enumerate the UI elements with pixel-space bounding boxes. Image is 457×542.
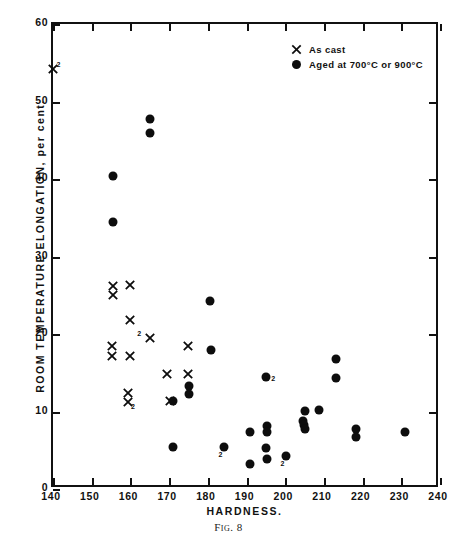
data-point-aged-28 bbox=[245, 460, 254, 469]
data-point-aged-7: 2 bbox=[261, 372, 270, 381]
x-tick-label-160: 160 bbox=[119, 490, 138, 502]
data-point-aged-3 bbox=[108, 217, 117, 226]
y-tick-right-40 bbox=[429, 179, 436, 181]
dot-marker-icon bbox=[300, 406, 309, 415]
cross-marker-icon bbox=[124, 280, 135, 291]
dot-marker-icon bbox=[261, 443, 270, 452]
dot-marker-icon bbox=[168, 397, 177, 406]
data-point-note: 2 bbox=[131, 403, 135, 410]
data-point-aged-13 bbox=[315, 405, 324, 414]
x-tick-top-220 bbox=[363, 24, 365, 31]
legend-item-as-cast: As cast bbox=[288, 42, 423, 57]
dot-marker-icon bbox=[261, 372, 270, 381]
dot-marker-icon bbox=[205, 296, 214, 305]
data-point-aged-4 bbox=[205, 296, 214, 305]
data-point-aged-12 bbox=[300, 406, 309, 415]
data-point-aged-0 bbox=[145, 114, 154, 123]
dot-marker-icon bbox=[185, 389, 194, 398]
dot-marker-icon bbox=[332, 354, 341, 363]
data-point-note: 2 bbox=[271, 374, 275, 381]
dot-marker-icon bbox=[168, 443, 177, 452]
x-tick-top-230 bbox=[401, 24, 403, 31]
cross-marker-icon bbox=[288, 44, 304, 55]
y-tick-right-50 bbox=[429, 102, 436, 104]
data-point-as-cast-13: 2 bbox=[123, 397, 134, 408]
data-point-aged-19 bbox=[246, 427, 255, 436]
y-tick-label-30: 30 bbox=[26, 249, 48, 261]
dot-marker-icon bbox=[246, 427, 255, 436]
legend-item-aged: Aged at 700°C or 900°C bbox=[288, 57, 423, 72]
x-tick-top-240 bbox=[440, 24, 442, 31]
data-point-aged-25 bbox=[261, 443, 270, 452]
data-point-as-cast-5: 2 bbox=[144, 332, 155, 343]
data-point-aged-6 bbox=[332, 354, 341, 363]
x-axis-title: HARDNESS. bbox=[51, 505, 438, 517]
y-tick-label-0: 0 bbox=[26, 481, 48, 493]
cross-marker-icon bbox=[107, 351, 118, 362]
data-point-note: 2 bbox=[280, 460, 284, 467]
cross-marker-icon bbox=[124, 315, 135, 326]
data-point-as-cast-11 bbox=[183, 369, 194, 380]
x-tick-label-220: 220 bbox=[351, 490, 370, 502]
x-tick-170 bbox=[169, 478, 171, 485]
cross-marker-icon bbox=[107, 290, 118, 301]
data-point-aged-2 bbox=[108, 171, 117, 180]
dot-marker-icon bbox=[315, 405, 324, 414]
y-axis-title: ROOM TEMPERATURE ELONGATION, per cent. bbox=[34, 56, 46, 436]
data-point-aged-23 bbox=[168, 443, 177, 452]
y-tick-right-10 bbox=[429, 412, 436, 414]
x-tick-top-200 bbox=[285, 24, 287, 31]
x-tick-label-230: 230 bbox=[390, 490, 409, 502]
dot-marker-icon bbox=[332, 374, 341, 383]
y-tick-label-40: 40 bbox=[26, 171, 48, 183]
dot-marker-icon bbox=[145, 114, 154, 123]
data-point-as-cast-7 bbox=[107, 351, 118, 362]
dot-marker-icon bbox=[245, 460, 254, 469]
data-point-aged-26 bbox=[262, 454, 271, 463]
cross-marker-icon bbox=[183, 369, 194, 380]
data-point-as-cast-8 bbox=[124, 350, 135, 361]
data-point-aged-8 bbox=[332, 374, 341, 383]
dot-marker-icon bbox=[206, 345, 215, 354]
data-point-note: 2 bbox=[57, 60, 61, 67]
x-tick-label-170: 170 bbox=[157, 490, 176, 502]
legend-label-as-cast: As cast bbox=[309, 44, 346, 55]
y-tick-right-30 bbox=[429, 257, 436, 259]
dot-marker-icon bbox=[401, 427, 410, 436]
x-tick-180 bbox=[208, 478, 210, 485]
x-tick-220 bbox=[363, 478, 365, 485]
plot-area: 222222 bbox=[51, 22, 438, 487]
cross-marker-icon bbox=[144, 332, 155, 343]
y-tick-label-10: 10 bbox=[26, 404, 48, 416]
dot-marker-icon bbox=[262, 454, 271, 463]
x-tick-140 bbox=[53, 478, 55, 485]
figure-caption: Fig. 8 bbox=[0, 521, 457, 533]
data-point-note: 2 bbox=[137, 329, 141, 336]
x-tick-label-210: 210 bbox=[312, 490, 331, 502]
x-tick-top-150 bbox=[92, 24, 94, 31]
y-tick-label-60: 60 bbox=[26, 16, 48, 28]
data-point-as-cast-9 bbox=[183, 340, 194, 351]
data-point-aged-24: 2 bbox=[220, 443, 229, 452]
figure-8-scatter-plot: 222222 ROOM TEMPERATURE ELONGATION, per … bbox=[0, 0, 457, 542]
x-tick-150 bbox=[92, 478, 94, 485]
dot-marker-icon bbox=[288, 60, 304, 69]
data-point-as-cast-10 bbox=[162, 368, 173, 379]
x-tick-160 bbox=[130, 478, 132, 485]
x-tick-top-170 bbox=[169, 24, 171, 31]
data-point-as-cast-4 bbox=[124, 315, 135, 326]
x-tick-label-180: 180 bbox=[196, 490, 215, 502]
y-tick-label-20: 20 bbox=[26, 326, 48, 338]
dot-marker-icon bbox=[262, 427, 271, 436]
y-tick-50 bbox=[53, 102, 60, 104]
x-tick-230 bbox=[401, 478, 403, 485]
x-tick-240 bbox=[440, 478, 442, 485]
x-tick-top-190 bbox=[247, 24, 249, 31]
y-tick-20 bbox=[53, 334, 60, 336]
x-tick-label-240: 240 bbox=[428, 490, 447, 502]
x-tick-label-150: 150 bbox=[80, 490, 99, 502]
cross-marker-icon bbox=[124, 350, 135, 361]
x-tick-200 bbox=[285, 478, 287, 485]
x-tick-top-180 bbox=[208, 24, 210, 31]
dot-marker-icon bbox=[301, 424, 310, 433]
